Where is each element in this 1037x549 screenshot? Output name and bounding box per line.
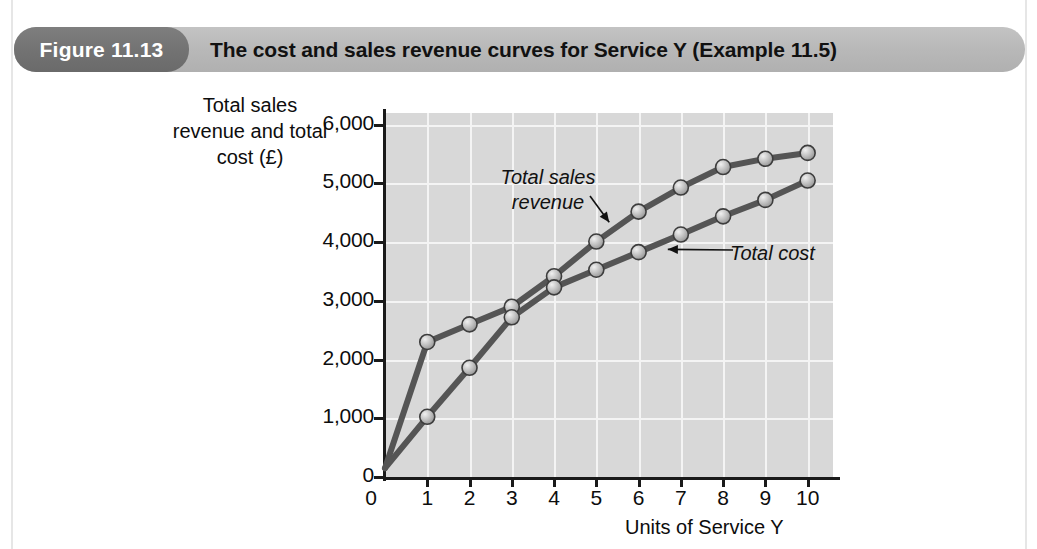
x-axis-tick-label: 8 — [703, 486, 743, 510]
x-axis-tick-label: 9 — [745, 486, 785, 510]
data-point-marker — [547, 280, 562, 295]
data-point-marker — [673, 180, 688, 195]
data-point-marker — [673, 227, 688, 242]
series-annotation-total-sales-revenue: Total sales revenue — [468, 165, 628, 215]
data-point-marker — [758, 151, 773, 166]
x-axis-tick-label: 7 — [661, 486, 701, 510]
data-point-marker — [462, 317, 477, 332]
y-axis-tick — [374, 359, 384, 362]
chart-plot-svg — [0, 72, 1037, 549]
data-point-marker — [631, 245, 646, 260]
chart-region: 01,0002,0003,0004,0005,0006,000 Total sa… — [0, 72, 1037, 549]
data-point-marker — [589, 234, 604, 249]
y-axis-tick — [374, 182, 384, 185]
y-axis-tick — [374, 300, 384, 303]
series-annotation-total-cost: Total cost — [730, 241, 815, 266]
data-point-marker — [800, 173, 815, 188]
data-point-marker — [462, 360, 477, 375]
data-point-marker — [504, 310, 519, 325]
data-point-marker — [758, 192, 773, 207]
x-axis-tick-label: 10 — [788, 486, 828, 510]
x-axis-tick-label: 5 — [576, 486, 616, 510]
x-axis-tick-label: 4 — [534, 486, 574, 510]
y-axis-tick — [374, 124, 384, 127]
data-point-marker — [631, 204, 646, 219]
data-point-marker — [716, 209, 731, 224]
figure-number-label: Figure 11.13 — [40, 38, 164, 62]
x-axis-tick-label: 0 — [351, 486, 391, 510]
x-axis-tick-label: 6 — [619, 486, 659, 510]
figure-page: Figure 11.13 The cost and sales revenue … — [0, 0, 1037, 549]
figure-title: The cost and sales revenue curves for Se… — [210, 27, 837, 72]
x-axis-tick-label: 2 — [450, 486, 490, 510]
data-point-marker — [800, 145, 815, 160]
data-point-marker — [716, 160, 731, 175]
annotation-arrow-total-cost — [668, 245, 733, 254]
x-axis-tick-label: 1 — [407, 486, 447, 510]
y-axis-tick — [374, 476, 384, 479]
data-point-marker — [420, 409, 435, 424]
y-axis-tick — [374, 417, 384, 420]
data-point-marker — [420, 334, 435, 349]
figure-number-pill: Figure 11.13 — [14, 27, 189, 72]
figure-header-band: Figure 11.13 The cost and sales revenue … — [14, 27, 1025, 72]
data-point-marker — [589, 262, 604, 277]
series-line-total-cost — [385, 181, 808, 469]
x-axis-tick-label: 3 — [492, 486, 532, 510]
y-axis-tick — [374, 241, 384, 244]
